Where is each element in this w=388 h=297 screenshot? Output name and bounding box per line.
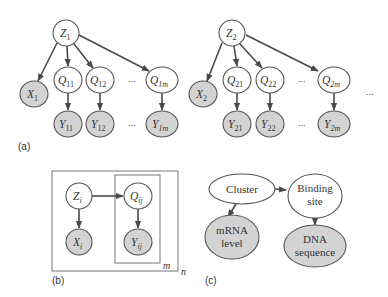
edge-z2-q2m bbox=[246, 35, 318, 71]
edge-z2-x2 bbox=[207, 43, 222, 81]
ellipsis: ... bbox=[298, 117, 306, 128]
inner-plate-label: m bbox=[163, 260, 170, 271]
node-cluster: Cluster bbox=[209, 174, 275, 204]
node-y11: Y11 bbox=[54, 111, 82, 137]
node-q1m: Q1m bbox=[146, 67, 178, 93]
edge-z1-x1 bbox=[38, 43, 57, 81]
svg-text:site: site bbox=[307, 195, 322, 207]
edge-z2-q22 bbox=[240, 44, 262, 68]
node-mrna-level: mRNA level bbox=[205, 215, 259, 259]
node-q22: Q22 bbox=[256, 67, 284, 93]
node-q11: Q11 bbox=[54, 67, 82, 93]
svg-text:DNA: DNA bbox=[303, 233, 327, 245]
panel-a-group-2: Z2 X2 Q21 Q22 ... Q2m Y21 Y22 ... bbox=[189, 20, 350, 137]
figure-canvas: Z1 X1 Q11 Q12 ... Q1m Y11 Y12 ... bbox=[0, 0, 388, 297]
node-y1m: Y1m bbox=[146, 111, 178, 137]
panel-label-c: (c) bbox=[205, 275, 217, 286]
node-y21: Y21 bbox=[223, 111, 251, 137]
svg-text:Cluster: Cluster bbox=[226, 183, 258, 195]
panel-c: Cluster Binding site mRNA level DNA sequ… bbox=[205, 174, 346, 267]
node-z1: Z1 bbox=[53, 20, 79, 46]
panel-b: m n Zi Qij Xi Yij bbox=[52, 171, 186, 277]
trailing-ellipsis: ... bbox=[366, 86, 374, 97]
svg-text:Binding: Binding bbox=[297, 182, 333, 194]
edge-z1-q12 bbox=[74, 44, 93, 68]
node-x1: X1 bbox=[20, 81, 48, 107]
panel-label-b: (b) bbox=[52, 275, 64, 286]
panel-a-group-1: Z1 X1 Q11 Q12 ... Q1m Y11 Y12 ... bbox=[20, 20, 178, 137]
edge-z1-q11 bbox=[67, 46, 68, 66]
edge-z2-q21 bbox=[234, 46, 237, 66]
svg-text:level: level bbox=[221, 237, 242, 249]
node-z2: Z2 bbox=[219, 20, 245, 46]
node-binding-site: Binding site bbox=[288, 174, 342, 218]
edge-z1-q1m bbox=[79, 35, 149, 71]
ellipsis: ... bbox=[128, 73, 136, 84]
node-dna-sequence: DNA sequence bbox=[284, 225, 346, 267]
outer-plate-label: n bbox=[181, 266, 186, 277]
node-q21: Q21 bbox=[223, 67, 251, 93]
edge-cluster-binding bbox=[275, 189, 286, 190]
node-xi: Xi bbox=[66, 229, 92, 255]
node-q2m: Q2m bbox=[318, 67, 350, 93]
ellipsis: ... bbox=[128, 117, 136, 128]
node-y12: Y12 bbox=[86, 111, 114, 137]
svg-text:mRNA: mRNA bbox=[216, 224, 248, 236]
svg-text:sequence: sequence bbox=[295, 246, 335, 258]
node-q12: Q12 bbox=[86, 67, 114, 93]
ellipsis: ... bbox=[298, 73, 306, 84]
panel-label-a: (a) bbox=[18, 141, 30, 152]
node-qij: Qij bbox=[124, 183, 152, 209]
node-yij: Yij bbox=[124, 229, 152, 255]
node-x2: X2 bbox=[189, 81, 217, 107]
node-y22: Y22 bbox=[256, 111, 284, 137]
node-zi: Zi bbox=[66, 183, 92, 209]
node-y2m: Y2m bbox=[318, 111, 350, 137]
